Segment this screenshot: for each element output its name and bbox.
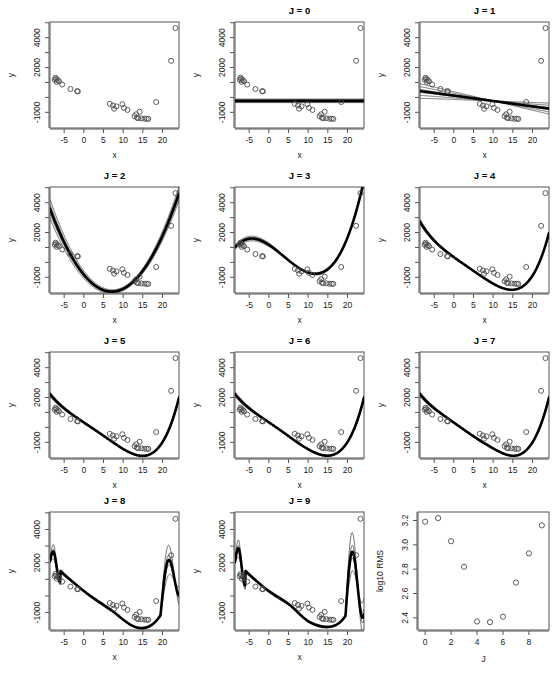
y-tick-label: 4000 (217, 28, 227, 47)
rms-data-point (487, 619, 492, 624)
bootstrap-fit-curve (235, 179, 364, 274)
main-fit-curve (50, 552, 179, 629)
rms-x-tick-label: 0 (423, 637, 428, 647)
x-tick-label: 20 (158, 637, 168, 647)
x-axis-label: x (112, 480, 117, 490)
data-point (68, 417, 73, 422)
y-tick-label: 2000 (32, 223, 42, 242)
panel-j-6: J = 6-505101520-100020004000xy (185, 330, 371, 500)
data-point (173, 516, 178, 521)
panel-title: J = 7 (474, 335, 495, 346)
x-tick-label: 10 (488, 135, 498, 145)
data-point (154, 599, 159, 604)
x-tick-label: 20 (158, 135, 168, 145)
y-tick-label: -1000 (32, 266, 42, 288)
panel-title: J = 2 (104, 170, 125, 181)
data-point (253, 87, 258, 92)
main-fit-curve (420, 222, 549, 290)
figure-panel-grid: -505101520-100020004000xyJ = 0-505101520… (0, 0, 559, 680)
rms-data-point (423, 519, 428, 524)
panel-title: J = 4 (474, 170, 496, 181)
data-point (137, 609, 142, 614)
bootstrap-fit-curve (235, 182, 364, 273)
x-tick-label: 5 (286, 465, 291, 475)
x-tick-label: -5 (245, 637, 253, 647)
data-point (245, 82, 250, 87)
x-tick-label: -5 (60, 637, 68, 647)
y-tick-label: 4000 (217, 193, 227, 212)
y-axis-label: y (6, 402, 16, 407)
data-point (539, 388, 544, 393)
y-tick-label: -1000 (217, 431, 227, 453)
rms-x-tick-label: 4 (475, 637, 480, 647)
y-axis-label: y (6, 237, 16, 242)
y-tick-label: 4000 (217, 358, 227, 377)
x-axis-label: x (482, 150, 487, 160)
x-tick-label: -5 (430, 135, 438, 145)
data-point (543, 26, 548, 31)
panel-j-0: J = 0-505101520-100020004000xy (185, 0, 371, 170)
data-point (524, 265, 529, 270)
data-point (507, 274, 512, 279)
x-axis-label: x (112, 315, 117, 325)
main-fit-curve (50, 394, 179, 456)
y-axis-label: y (191, 237, 201, 242)
data-point (322, 109, 327, 114)
panel-title: J = 6 (289, 335, 310, 346)
panel-j-5: J = 5-505101520-100020004000xy (0, 330, 186, 500)
x-tick-label: 0 (81, 465, 86, 475)
y-tick-label: 4000 (32, 193, 42, 212)
main-fit-curve (50, 194, 179, 292)
x-tick-label: 0 (81, 637, 86, 647)
x-tick-label: 5 (471, 465, 476, 475)
data-point (322, 609, 327, 614)
rms-data-point (448, 539, 453, 544)
rms-data-point (461, 564, 466, 569)
panel-title: J = 5 (104, 335, 126, 346)
panel-title: J = 0 (289, 5, 310, 16)
y-tick-label: -1000 (217, 266, 227, 288)
data-point (245, 247, 250, 252)
x-tick-label: -5 (245, 135, 253, 145)
data-point (245, 412, 250, 417)
data-point (339, 599, 344, 604)
data-point (154, 100, 159, 105)
x-tick-label: 15 (138, 300, 148, 310)
x-axis-label: x (112, 150, 117, 160)
x-tick-label: 20 (158, 465, 168, 475)
rms-data-point (539, 523, 544, 528)
x-tick-label: 0 (451, 300, 456, 310)
y-tick-label: 2000 (217, 388, 227, 407)
data-point (339, 430, 344, 435)
y-tick-label: -1000 (32, 101, 42, 123)
x-tick-label: 0 (451, 135, 456, 145)
x-tick-label: 15 (323, 465, 333, 475)
rms-y-tick-label: 2.8 (400, 563, 410, 575)
y-tick-label: 2000 (402, 223, 412, 242)
y-tick-label: -1000 (402, 101, 412, 123)
data-point (507, 439, 512, 444)
y-tick-label: -1000 (217, 101, 227, 123)
y-tick-label: 4000 (402, 28, 412, 47)
y-tick-label: 2000 (32, 388, 42, 407)
data-point (354, 388, 359, 393)
y-tick-label: 2000 (402, 58, 412, 77)
x-tick-label: -5 (245, 465, 253, 475)
x-axis-label: x (297, 480, 302, 490)
panel-j-7: J = 7-505101520-100020004000xy (370, 330, 556, 500)
data-point (322, 439, 327, 444)
data-point (539, 223, 544, 228)
data-point (154, 430, 159, 435)
x-tick-label: 10 (118, 637, 128, 647)
x-tick-label: 20 (528, 465, 538, 475)
data-point (173, 26, 178, 31)
x-tick-label: -5 (60, 300, 68, 310)
rms-y-axis-label: log10 RMS (375, 550, 385, 592)
rms-y-tick-label: 2.4 (400, 612, 410, 624)
main-fit-curve (420, 394, 549, 456)
panel-title: J = 8 (104, 495, 125, 506)
rms-data-point (513, 580, 518, 585)
y-tick-label: 2000 (32, 58, 42, 77)
panel-title: J = 3 (289, 170, 310, 181)
x-tick-label: 15 (508, 465, 518, 475)
